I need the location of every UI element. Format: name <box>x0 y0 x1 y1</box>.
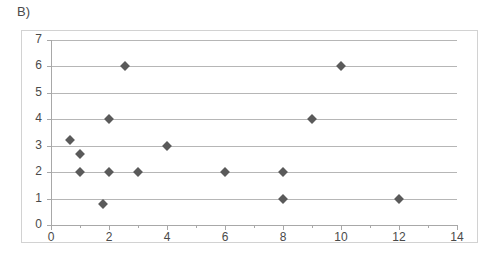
scatter-point <box>104 114 114 124</box>
scatter-point <box>133 167 143 177</box>
scatter-point <box>278 194 288 204</box>
scatter-point <box>307 114 317 124</box>
scatter-point <box>220 167 230 177</box>
chart-frame: 01234567 02468101214 <box>21 30 478 243</box>
x-axis-tick-label: 6 <box>210 231 240 244</box>
scatter-point <box>98 199 108 209</box>
scatter-point <box>120 61 130 71</box>
x-axis-minor-tick <box>196 225 197 228</box>
scatter-point <box>394 194 404 204</box>
x-axis-tick-label: 12 <box>384 231 414 244</box>
scatter-point <box>104 167 114 177</box>
x-axis-minor-tick <box>428 225 429 228</box>
gridline <box>51 146 457 147</box>
scatter-point <box>75 149 85 159</box>
y-axis-tick-label: 7 <box>24 33 42 46</box>
y-axis-line <box>51 40 52 226</box>
x-axis-minor-tick <box>312 225 313 228</box>
x-axis-minor-tick <box>370 225 371 228</box>
x-axis-minor-tick <box>138 225 139 228</box>
y-axis-tick-label: 3 <box>24 139 42 152</box>
x-axis-tick-label: 2 <box>94 231 124 244</box>
y-axis-tick-label: 1 <box>24 192 42 205</box>
x-axis-minor-tick <box>80 225 81 228</box>
y-axis-tick-label: 2 <box>24 165 42 178</box>
scatter-plot-area: 01234567 02468101214 <box>22 31 479 244</box>
x-axis-tick-label: 4 <box>152 231 182 244</box>
y-axis-tick-label: 4 <box>24 112 42 125</box>
x-axis-minor-tick <box>254 225 255 228</box>
x-axis-tick-label: 14 <box>442 231 472 244</box>
x-axis-tick-label: 8 <box>268 231 298 244</box>
scatter-point <box>75 167 85 177</box>
gridline <box>51 66 457 67</box>
y-axis-tick-label: 0 <box>24 218 42 231</box>
scatter-point <box>162 141 172 151</box>
gridline <box>51 40 457 41</box>
scatter-point <box>65 135 75 145</box>
scatter-point <box>336 61 346 71</box>
y-axis-tick-label: 5 <box>24 86 42 99</box>
scatter-point <box>278 167 288 177</box>
x-axis-tick-label: 0 <box>36 231 66 244</box>
figure: B) 01234567 02468101214 <box>0 0 498 260</box>
x-axis-tick-label: 10 <box>326 231 356 244</box>
panel-label: B) <box>17 5 30 19</box>
gridline <box>51 93 457 94</box>
y-axis-tick-label: 6 <box>24 59 42 72</box>
